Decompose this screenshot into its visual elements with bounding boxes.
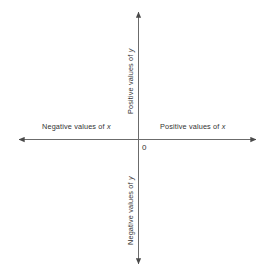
negative-x-label-text: Negative values of (42, 122, 107, 131)
axes-drawing (0, 0, 271, 277)
negative-x-axis-label: Negative values of x (42, 123, 111, 130)
positive-x-axis-label: Positive values of x (160, 123, 225, 130)
positive-x-label-text: Positive values of (160, 122, 222, 131)
positive-x-label-variable: x (222, 122, 226, 131)
negative-x-label-variable: x (107, 122, 111, 131)
origin-label: 0 (142, 144, 146, 152)
negative-y-label-variable: y (126, 176, 135, 180)
positive-y-label-text: Positive values of (126, 52, 135, 114)
negative-y-axis-label: Negative values of y (127, 176, 134, 245)
positive-y-axis-label: Positive values of y (127, 49, 134, 114)
negative-y-label-text: Negative values of (126, 180, 135, 245)
coordinate-plane-figure: Negative values of x Positive values of … (0, 0, 271, 277)
positive-y-label-variable: y (126, 49, 135, 53)
